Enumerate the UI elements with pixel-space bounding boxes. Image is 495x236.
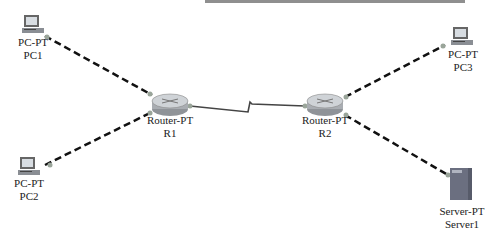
device-type: PC-PT <box>428 48 495 61</box>
node-label-pc2: PC-PT PC2 <box>0 177 64 203</box>
link-r1-r2-serial[interactable] <box>190 102 305 112</box>
device-name: PC3 <box>428 61 495 74</box>
pc-icon[interactable] <box>18 157 40 175</box>
device-type: Router-PT <box>290 114 360 127</box>
node-label-r1: Router-PT R1 <box>135 114 205 140</box>
device-name: R1 <box>135 127 205 140</box>
pc-icon[interactable] <box>451 27 473 45</box>
device-type: PC-PT <box>0 177 64 190</box>
router-icon[interactable] <box>307 94 343 116</box>
device-name: PC2 <box>0 190 64 203</box>
link-r2-server1[interactable] <box>345 115 448 175</box>
network-topology-canvas <box>0 0 495 236</box>
device-type: PC-PT <box>0 36 68 49</box>
node-label-pc1: PC-PT PC1 <box>0 36 68 62</box>
node-label-r2: Router-PT R2 <box>290 114 360 140</box>
node-label-server1: Server-PT Server1 <box>427 205 495 231</box>
links <box>45 36 448 175</box>
node-label-pc3: PC-PT PC3 <box>428 48 495 74</box>
device-name: R2 <box>290 127 360 140</box>
device-name: Server1 <box>427 218 495 231</box>
pc-icon[interactable] <box>22 15 44 33</box>
device-type: Router-PT <box>135 114 205 127</box>
router-icon[interactable] <box>152 94 188 116</box>
device-type: Server-PT <box>427 205 495 218</box>
server-icon[interactable] <box>450 168 472 200</box>
port-indicators <box>45 35 451 178</box>
device-name: PC1 <box>0 49 68 62</box>
